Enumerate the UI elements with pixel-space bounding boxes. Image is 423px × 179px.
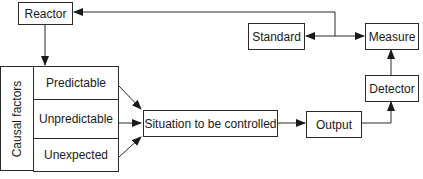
- standard-box: Standard: [248, 23, 305, 50]
- reactor-box: Reactor: [18, 2, 73, 25]
- detector-label: Detector: [369, 82, 414, 96]
- measure-box: Measure: [365, 23, 419, 50]
- output-label: Output: [316, 118, 352, 132]
- predictable-label: Predictable: [46, 76, 106, 90]
- detector-box: Detector: [365, 75, 419, 102]
- situation-box: Situation to be controlled: [143, 110, 278, 137]
- predictable-box: Predictable: [33, 66, 119, 100]
- causal-factors-label-box: Causal factors: [0, 66, 34, 171]
- unexpected-box: Unexpected: [33, 138, 119, 172]
- reactor-label: Reactor: [24, 7, 66, 21]
- output-box: Output: [306, 111, 362, 138]
- standard-label: Standard: [252, 30, 301, 44]
- causal-factors-label: Causal factors: [10, 80, 24, 157]
- situation-label: Situation to be controlled: [144, 117, 276, 131]
- unpredictable-label: Unpredictable: [39, 112, 113, 126]
- measure-label: Measure: [369, 30, 416, 44]
- unpredictable-box: Unpredictable: [33, 99, 119, 139]
- unexpected-label: Unexpected: [44, 148, 108, 162]
